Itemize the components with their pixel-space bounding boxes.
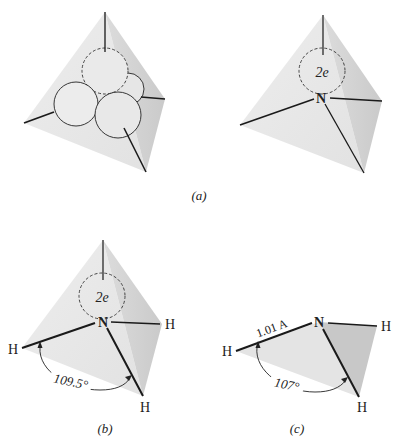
- caption-a: (a): [191, 188, 206, 203]
- lone-pair-label: 2e: [315, 65, 328, 80]
- nitrogen-atom-label: N: [314, 315, 324, 330]
- orbital-sphere-front: [95, 92, 141, 138]
- hydrogen-label-left: H: [8, 342, 18, 357]
- caption-b: (b): [97, 421, 112, 436]
- panel-c: N H H H 1.01 A 107°: [222, 315, 391, 415]
- hydrogen-label-right: H: [165, 317, 175, 332]
- bond-angle-label: 107°: [273, 375, 300, 395]
- lone-pair-label: 2e: [95, 290, 108, 305]
- bond-angle-label: 109.5°: [52, 371, 89, 393]
- orbital-sphere-left: [54, 82, 98, 126]
- ammonia-geometry-figure: 2e N (a) 2e N H H H 109.5° (b) N H: [0, 0, 398, 439]
- panel-a-left: [24, 12, 165, 172]
- panel-a-right: 2e N: [240, 15, 382, 173]
- hydrogen-label-bottom: H: [357, 400, 367, 415]
- nitrogen-atom-label: N: [98, 315, 108, 330]
- hydrogen-label-left: H: [222, 344, 232, 359]
- nitrogen-atom-label: N: [316, 91, 326, 106]
- panel-b: 2e N H H H 109.5°: [8, 240, 175, 415]
- caption-c: (c): [290, 421, 304, 436]
- hydrogen-label-right: H: [381, 319, 391, 334]
- hydrogen-label-bottom: H: [140, 400, 150, 415]
